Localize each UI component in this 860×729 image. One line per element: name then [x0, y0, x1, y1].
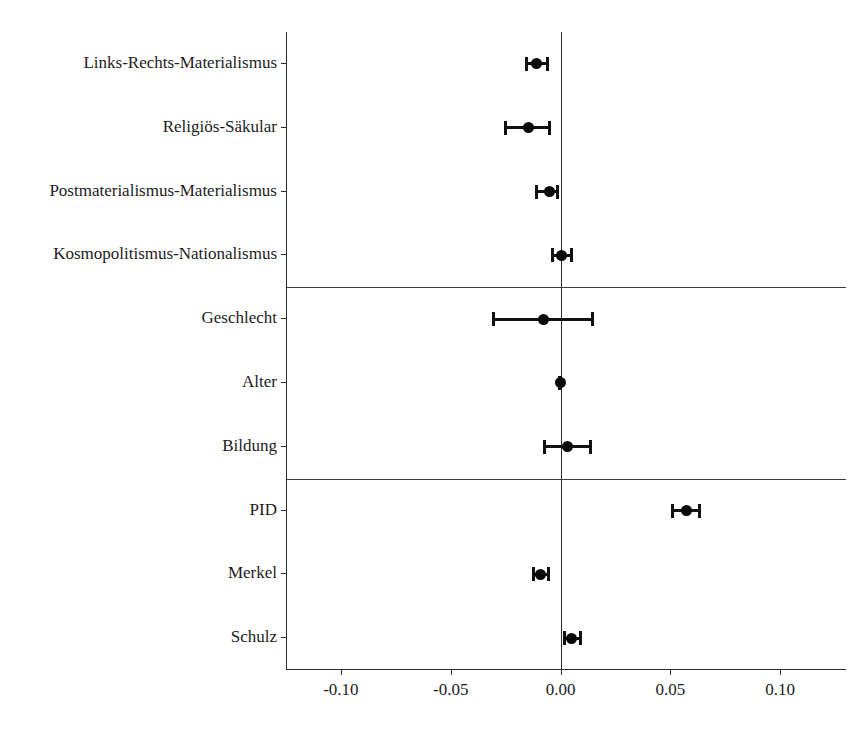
ci-cap-lower: [671, 504, 674, 518]
ci-cap-lower: [492, 312, 495, 326]
coefficient-plot-figure: -0.10-0.050.000.050.10 Links-Rechts-Mate…: [0, 0, 860, 729]
x-tick-mark: [670, 670, 671, 675]
group-separator-line: [286, 287, 846, 288]
x-tick-label: 0.00: [546, 680, 576, 700]
y-axis-category-label: Kosmopolitismus-Nationalismus: [53, 244, 277, 264]
y-tick-mark: [281, 127, 286, 128]
ci-cap-upper: [546, 57, 549, 71]
y-tick-mark: [281, 254, 286, 255]
y-tick-mark: [281, 573, 286, 574]
y-axis-category-label: Postmaterialismus-Materialismus: [49, 181, 277, 201]
point-estimate-marker: [544, 186, 555, 197]
point-estimate-marker: [538, 314, 549, 325]
x-tick-label: 0.10: [765, 680, 795, 700]
point-estimate-marker: [555, 377, 566, 388]
ci-cap-upper: [591, 312, 594, 326]
y-tick-mark: [281, 318, 286, 319]
ci-cap-lower: [543, 440, 546, 454]
ci-cap-lower: [535, 185, 538, 199]
point-estimate-marker: [523, 122, 534, 133]
point-estimate-marker: [535, 569, 546, 580]
y-axis-category-label: Bildung: [222, 436, 277, 456]
ci-cap-upper: [547, 567, 550, 581]
y-tick-mark: [281, 446, 286, 447]
zero-reference-line: [561, 32, 562, 670]
point-estimate-marker: [566, 633, 577, 644]
y-tick-mark: [281, 382, 286, 383]
ci-cap-lower: [551, 248, 554, 262]
x-tick-label: 0.05: [655, 680, 685, 700]
x-tick-label: -0.05: [433, 680, 468, 700]
y-axis-category-label: Merkel: [228, 563, 277, 583]
point-estimate-marker: [562, 441, 573, 452]
x-tick-mark: [451, 670, 452, 675]
ci-cap-upper: [579, 631, 582, 645]
ci-cap-upper: [570, 248, 573, 262]
ci-cap-upper: [589, 440, 592, 454]
group-separator-line: [286, 479, 846, 480]
y-axis-category-label: PID: [250, 500, 277, 520]
point-estimate-marker: [681, 505, 692, 516]
y-tick-mark: [281, 63, 286, 64]
y-axis-category-label: Geschlecht: [201, 308, 277, 328]
x-tick-mark: [341, 670, 342, 675]
plot-panel: -0.10-0.050.000.050.10 Links-Rechts-Mate…: [286, 32, 846, 670]
ci-cap-upper: [556, 185, 559, 199]
point-estimate-marker: [556, 250, 567, 261]
y-axis-category-label: Schulz: [231, 627, 277, 647]
ci-cap-lower: [525, 57, 528, 71]
ci-cap-upper: [548, 121, 551, 135]
x-tick-mark: [561, 670, 562, 675]
x-tick-label: -0.10: [323, 680, 358, 700]
x-axis-line: [286, 669, 846, 670]
ci-cap-lower: [504, 121, 507, 135]
x-tick-mark: [780, 670, 781, 675]
y-tick-mark: [281, 510, 286, 511]
y-axis-category-label: Links-Rechts-Materialismus: [83, 53, 277, 73]
point-estimate-marker: [531, 58, 542, 69]
y-axis-line: [286, 32, 287, 670]
y-tick-mark: [281, 637, 286, 638]
y-axis-category-label: Alter: [242, 372, 277, 392]
ci-cap-upper: [698, 504, 701, 518]
y-tick-mark: [281, 191, 286, 192]
y-axis-category-label: Religiös-Säkular: [163, 117, 277, 137]
